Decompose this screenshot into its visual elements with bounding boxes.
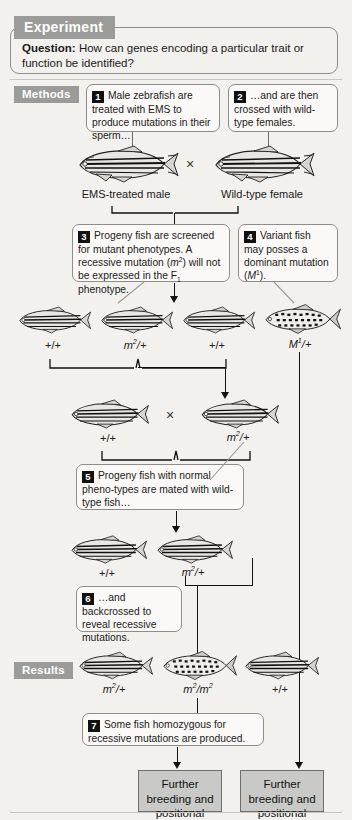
fish-f1-variant-spotted bbox=[260, 303, 342, 335]
step7-arrow-head bbox=[173, 762, 181, 769]
f2-connector-right-stem bbox=[252, 558, 253, 586]
step-6-callout: 6…and backcrossed to reveal recessive mu… bbox=[76, 586, 182, 632]
fish-result-homozygous-spotted bbox=[158, 650, 238, 681]
experiment-figure: Experiment Question: How can genes encod… bbox=[0, 0, 352, 820]
fish-result-3 bbox=[240, 650, 320, 681]
step-4-number: 4 bbox=[244, 231, 256, 243]
step-1-text: Male zebrafish are treated with EMS to p… bbox=[92, 90, 210, 141]
outcome-box-dominant: Further breeding and positional cloning bbox=[240, 770, 324, 812]
step-7-number: 7 bbox=[88, 720, 100, 732]
leader-step-5 bbox=[206, 442, 246, 486]
header-divider bbox=[10, 79, 342, 80]
dominant-branch-line bbox=[299, 352, 300, 762]
genotype-result-3: +/+ bbox=[240, 683, 320, 695]
fish-cross2-right bbox=[196, 398, 280, 430]
experiment-tag: Experiment bbox=[14, 16, 115, 39]
step-3-callout: 3Progeny fish are screened for mutant ph… bbox=[72, 224, 230, 282]
parent-cross-symbol: × bbox=[186, 156, 194, 172]
fish-f2-right bbox=[152, 534, 234, 565]
dominant-branch-arrow-head bbox=[295, 762, 303, 769]
genotype-f1-3: +/+ bbox=[177, 339, 257, 351]
genotype-f2-right: m2/+ bbox=[153, 566, 233, 578]
genotype-f1-2: m2/+ bbox=[95, 339, 175, 351]
step-6-number: 6 bbox=[82, 593, 94, 605]
fish-f1-2 bbox=[96, 305, 174, 335]
fish-cross2-left bbox=[66, 398, 150, 430]
step-2-callout: 2…and are then crossed with wild-type fe… bbox=[228, 84, 338, 132]
step-1-number: 1 bbox=[92, 91, 104, 103]
genotype-result-1: m2/+ bbox=[74, 683, 154, 695]
f2-connector-left-stem bbox=[185, 576, 186, 586]
fish-f1-1 bbox=[14, 305, 92, 335]
f2-connector-horizontal bbox=[185, 585, 253, 586]
question-label: Question: bbox=[22, 42, 76, 54]
step-3-number: 3 bbox=[78, 231, 90, 243]
result-to-step7-line bbox=[197, 698, 198, 714]
parent-to-f1-line bbox=[174, 213, 175, 224]
methods-tag: Methods bbox=[14, 86, 79, 103]
step-4-text: Variant fish may posses a dominant mutat… bbox=[244, 230, 329, 281]
step-1-callout: 1Male zebrafish are treated with EMS to … bbox=[86, 84, 220, 132]
step-2-number: 2 bbox=[234, 91, 246, 103]
fish-wild-type-female bbox=[208, 145, 316, 183]
fish-f2-left bbox=[66, 534, 148, 565]
label-ems-treated-male: EMS-treated male bbox=[66, 188, 186, 200]
genotype-f2-left: +/+ bbox=[67, 567, 147, 579]
fish-f1-3 bbox=[178, 305, 256, 335]
f1-arrow-head bbox=[170, 296, 178, 303]
f1-to-cross-stem bbox=[225, 367, 226, 394]
genotype-result-2: m2/m2 bbox=[158, 683, 238, 695]
step-7-callout: 7Some fish homozygous for recessive muta… bbox=[82, 713, 264, 746]
f1-selection-brace bbox=[48, 358, 228, 380]
step-2-text: …and are then crossed with wild-type fem… bbox=[234, 90, 318, 128]
fish-result-1 bbox=[74, 650, 154, 681]
genotype-f1-variant: M1/+ bbox=[260, 338, 340, 350]
question-text: Question: How can genes encoding a parti… bbox=[22, 41, 322, 71]
label-wild-type-female: Wild-type female bbox=[202, 188, 322, 200]
genotype-cross2-left: +/+ bbox=[68, 432, 148, 444]
footer-divider bbox=[10, 812, 342, 813]
step-4-callout: 4Variant fish may posses a dominant muta… bbox=[238, 224, 338, 282]
genotype-f1-1: +/+ bbox=[13, 339, 93, 351]
step-3-text: Progeny fish are screened for mutant phe… bbox=[78, 230, 220, 295]
step5-arrow-head bbox=[172, 526, 180, 533]
step-7-text: Some fish homozygous for recessive mutat… bbox=[88, 719, 245, 744]
step-5-number: 5 bbox=[82, 471, 94, 483]
cross2-symbol: × bbox=[166, 407, 174, 423]
results-tag: Results bbox=[14, 662, 73, 679]
f1-to-cross-connector bbox=[138, 367, 226, 368]
outcome-box-recessive: Further breeding and positional cloning bbox=[138, 770, 222, 812]
fish-ems-treated-male bbox=[72, 145, 180, 183]
